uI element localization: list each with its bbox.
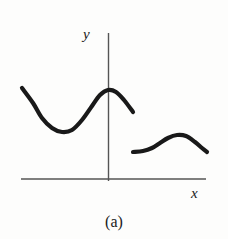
axes-group [21, 33, 206, 181]
function-graph-plot [0, 0, 228, 239]
curves-group [22, 88, 207, 152]
curve-left-branch [22, 88, 133, 132]
figure-caption: (a) [0, 214, 228, 230]
x-axis-label: x [191, 186, 198, 201]
y-axis-label: y [83, 27, 90, 42]
curve-right-branch [133, 135, 207, 152]
figure-container: y x (a) [0, 0, 228, 239]
